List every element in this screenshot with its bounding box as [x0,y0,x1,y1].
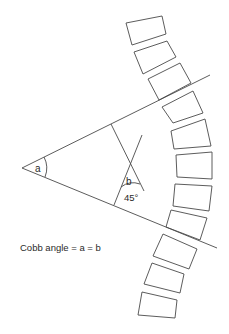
vertebra-2 [134,41,176,74]
angle-a-label: a [35,163,41,174]
vertebra-9 [153,234,197,269]
vertebra-6 [176,152,212,179]
angle-a-arc [44,157,47,177]
vertebra-7 [173,184,212,211]
vertebra-5 [171,119,211,149]
vertebra-11 [138,292,177,318]
vertebra-10 [144,263,184,293]
spine-vertebrae [126,16,212,318]
vertebra-1 [126,16,166,45]
angle-b-label: b [126,176,132,187]
upper-endplate-line [22,75,210,168]
cobb-angle-diagram: a b 45° Cobb angle = a = b [0,0,229,334]
angle-b-value: 45° [124,192,139,203]
cobb-angle-caption: Cobb angle = a = b [20,242,101,253]
